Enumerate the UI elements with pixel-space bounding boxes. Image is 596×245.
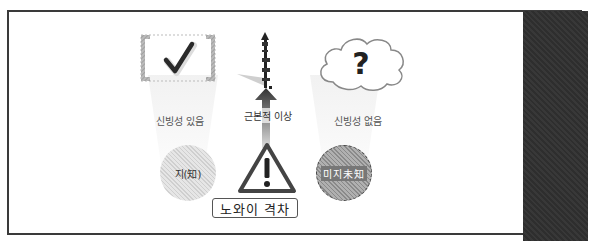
known-circle-label: 지(知) [175,166,202,181]
know-why-gap-box: 노와이 격차 [212,198,298,218]
know-why-gap-label: 노와이 격차 [220,199,290,218]
fundamental-anomaly-label: 근본적 이상 [238,108,298,123]
unknown-circle-label: 미지未知 [321,166,367,181]
known-circle: 지(知) [160,145,216,201]
svg-text:?: ? [352,46,369,81]
question-cloud-icon: ? [313,32,409,94]
unreliable-label: 신빙성 없음 [328,113,388,128]
dark-side-panel [523,11,588,241]
reliable-label: 신빙성 있음 [150,113,210,128]
unknown-circle: 미지未知 [316,145,372,201]
warning-triangle-icon [237,142,297,194]
checkmark-in-brackets-icon [140,34,216,82]
ruler-pole-icon [235,30,285,92]
